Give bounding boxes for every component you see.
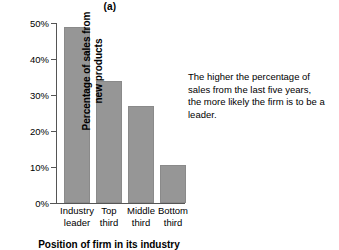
category-label-line-2: leader (59, 217, 95, 229)
y-tick-50: 50% (56, 23, 57, 24)
y-tick-10: 10% (56, 167, 57, 168)
y-tick-0: 0% (56, 203, 57, 204)
y-axis-line (56, 23, 57, 204)
category-label-line-2: third (91, 217, 127, 229)
y-tick-label-10: 10% (30, 162, 49, 173)
y-tick-40: 40% (56, 59, 57, 60)
category-label-top-third: Top third (91, 205, 127, 228)
category-label-industry-leader: Industry leader (59, 205, 95, 228)
panel-title: (a) (60, 1, 160, 12)
y-tick-label-30: 30% (30, 90, 49, 101)
y-tick-label-0: 0% (35, 198, 49, 209)
y-tick-20: 20% (56, 131, 57, 132)
category-label-bottom-third: Bottom third (155, 205, 191, 228)
category-label-line-2: third (123, 217, 159, 229)
bar-middle-third (128, 106, 154, 203)
category-labels: Industry leader Top third Middle third B… (56, 205, 184, 231)
y-tick-30: 30% (56, 95, 57, 96)
y-tick-label-40: 40% (30, 54, 49, 65)
category-label-line-1: Bottom (155, 205, 191, 217)
x-axis-line (50, 203, 185, 204)
category-label-line-1: Middle (123, 205, 159, 217)
annotation-line-2: sales from the last five years, (188, 84, 336, 97)
y-axis-title-line-2: new products (93, 0, 105, 146)
category-label-line-1: Industry (59, 205, 95, 217)
category-label-line-1: Top (91, 205, 127, 217)
annotation-line-4: leader. (188, 109, 336, 122)
category-label-line-2: third (155, 217, 191, 229)
x-axis-title: Position of firm in its industry (24, 239, 194, 250)
annotation-line-1: The higher the percentage of (188, 71, 336, 84)
bar-bottom-third (160, 165, 186, 203)
y-tick-label-20: 20% (30, 126, 49, 137)
annotation-line-3: the more likely the firm is to be a (188, 96, 336, 109)
y-axis-title-line-1: Percentage of sales from (81, 0, 93, 146)
y-axis-title: Percentage of sales from new products (81, 0, 105, 146)
chart-annotation: The higher the percentage of sales from … (188, 71, 336, 121)
category-label-middle-third: Middle third (123, 205, 159, 228)
y-tick-label-50: 50% (30, 18, 49, 29)
plot-area: 0% 10% 20% 30% 40% 50% Percentage of sal… (56, 23, 180, 203)
